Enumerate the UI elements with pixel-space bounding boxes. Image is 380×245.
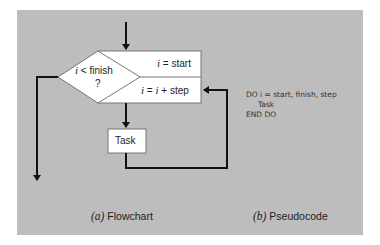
decision-label: i < finish [75,64,113,76]
pseudocode-line-3: END DO [246,110,337,120]
caption-pseudocode: (b) Pseudocode [253,210,328,222]
caption-b-tag: (b) [253,210,266,222]
flowchart-diagram [0,0,380,245]
task-label: Task [115,135,136,146]
pseudocode-line-2: Task [246,100,337,110]
decision-question: ? [95,78,101,89]
decision-op: < finish [78,65,113,76]
caption-flowchart: (a) Flowchart [91,210,153,222]
increment-mid: = [144,85,155,96]
increment-text: + step [159,85,189,96]
init-text: = start [160,58,191,69]
caption-b-label: Pseudocode [266,210,327,222]
pseudocode-block: DO i = start, finish, step Task END DO [246,90,337,120]
increment-label: i = i + step [141,84,189,96]
init-label: i = start [157,57,191,69]
exit-arrow [37,77,58,180]
pseudocode-line-1: DO i = start, finish, step [246,90,337,100]
caption-a-tag: (a) [91,210,104,222]
caption-a-label: Flowchart [104,210,152,222]
